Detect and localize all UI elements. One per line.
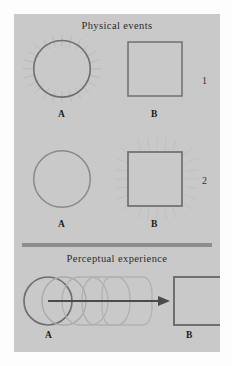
row1-circle-rays: [23, 35, 102, 103]
row1-square-b: [128, 42, 182, 96]
row1-label-b: B: [151, 109, 157, 119]
physical-events-diagram: [14, 14, 220, 352]
row1-circle-a: [34, 41, 91, 98]
morph-step-4: [102, 277, 152, 325]
row1-label-a: A: [58, 109, 65, 119]
row2-square-rays: [117, 138, 198, 221]
morph-step-2: [62, 277, 108, 325]
row2-circle-a: [34, 151, 91, 208]
motion-arrow-icon: [48, 296, 170, 306]
perceptual-square-b: [174, 277, 220, 325]
row-number-1: 1: [202, 75, 207, 86]
perceptual-experience-diagram: [14, 14, 220, 352]
row2-label-b: B: [151, 219, 157, 229]
perceptual-label-b: B: [186, 330, 192, 340]
morph-step-0-circle: [24, 277, 72, 325]
section-title-physical-events: Physical events: [14, 20, 220, 31]
morph-step-1: [42, 277, 86, 325]
morph-step-3: [82, 277, 130, 325]
row2-square-b: [128, 152, 182, 206]
row2-label-a: A: [58, 219, 65, 229]
row-number-2: 2: [202, 175, 207, 186]
section-divider: [22, 243, 212, 247]
figure-panel: Physical events: [14, 14, 220, 352]
section-title-perceptual-experience: Perceptual experience: [14, 253, 220, 264]
perceptual-label-a: A: [45, 330, 52, 340]
figure-root: Physical events: [0, 0, 232, 366]
